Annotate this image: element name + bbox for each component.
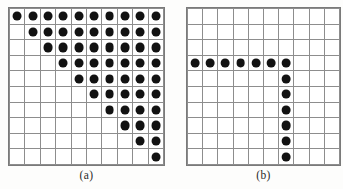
grid-cell-empty [310,149,324,164]
grid-cell-empty [72,149,86,164]
grid-cell-empty [310,134,324,149]
grid-cell-filled [149,149,163,164]
grid-cell-empty [234,103,248,118]
grid-cell-empty [218,71,232,86]
grid-cell-filled [41,9,55,24]
grid-cell-empty [294,87,308,102]
grid-cell-filled [149,40,163,55]
grid-cell-empty [310,103,324,118]
grid-cell-empty [249,71,263,86]
grid-cell-filled [188,56,202,71]
grid-cell-empty [41,56,55,71]
grid-cell-filled [118,40,132,55]
grid-cell-filled [118,71,132,86]
grid-cell-filled [133,103,147,118]
grid-cell-empty [10,134,24,149]
grid-cell-empty [203,71,217,86]
grid-cell-empty [41,134,55,149]
grid-cell-empty [234,71,248,86]
grid-cell-filled [279,118,293,133]
grid-cell-filled [72,71,86,86]
grid-cell-empty [325,9,339,24]
grid-cell-empty [218,40,232,55]
grid-cell-empty [10,40,24,55]
grid-cell-empty [41,71,55,86]
grid-cell-filled [264,56,278,71]
panel-a: (a) [8,7,165,181]
grid-cell-empty [133,149,147,164]
grid-cell-empty [203,25,217,40]
grid-cell-empty [325,25,339,40]
grid-cell-empty [218,25,232,40]
grid-cell-empty [25,134,39,149]
grid-cell-empty [25,118,39,133]
grid-cell-empty [264,134,278,149]
grid-cell-filled [249,56,263,71]
grid-cell-empty [218,149,232,164]
grid-cell-empty [279,25,293,40]
grid-cell-filled [279,134,293,149]
grid-cell-empty [294,25,308,40]
grid-cell-empty [188,87,202,102]
grid-cell-empty [325,118,339,133]
grid-cell-empty [249,103,263,118]
grid-cell-empty [118,149,132,164]
grid-cell-empty [102,149,116,164]
grid-cell-empty [234,118,248,133]
grid-cell-empty [188,149,202,164]
grid-cell-empty [294,9,308,24]
grid-cell-empty [56,87,70,102]
panel-a-label: (a) [80,170,94,182]
grid-cell-empty [203,103,217,118]
grid-cell-empty [188,134,202,149]
grid-cell-filled [279,56,293,71]
grid-cell-empty [310,87,324,102]
grid-cell-empty [325,71,339,86]
grid-cell-filled [279,87,293,102]
grid-cell-filled [149,71,163,86]
grid-cell-filled [56,56,70,71]
figure-root: (a) (b) [0,0,343,189]
grid-cell-filled [102,9,116,24]
grid-cell-empty [102,134,116,149]
grid-cell-empty [294,71,308,86]
grid-cell-empty [72,134,86,149]
grid-cell-filled [41,40,55,55]
grid-cell-empty [25,103,39,118]
grid-cell-empty [203,118,217,133]
grid-cell-filled [102,103,116,118]
grid-cell-filled [41,25,55,40]
grid-cell-filled [133,40,147,55]
grid-cell-empty [249,87,263,102]
grid-cell-empty [234,134,248,149]
grid-cell-empty [325,149,339,164]
grid-cell-empty [56,71,70,86]
grid-cell-filled [87,87,101,102]
grid-cell-filled [56,9,70,24]
grid-cell-empty [234,40,248,55]
grid-cell-empty [264,9,278,24]
grid-cell-empty [264,25,278,40]
grid-cell-empty [10,118,24,133]
grid-cell-empty [41,103,55,118]
grid-cell-empty [249,149,263,164]
grid-cell-empty [218,103,232,118]
grid-cell-empty [218,9,232,24]
grid-cell-empty [25,56,39,71]
grid-cell-filled [102,71,116,86]
grid-cell-empty [325,56,339,71]
grid-cell-filled [72,40,86,55]
grid-cell-empty [102,118,116,133]
grid-cell-empty [264,71,278,86]
grid-cell-empty [56,134,70,149]
grid-cell-empty [203,134,217,149]
grid-cell-filled [87,71,101,86]
grid-cell-empty [249,40,263,55]
grid-cell-filled [149,87,163,102]
grid-cell-empty [87,134,101,149]
grid-cell-filled [102,56,116,71]
grid-cell-empty [249,25,263,40]
grid-cell-empty [41,87,55,102]
grid-cell-empty [188,9,202,24]
grid-cell-filled [118,103,132,118]
